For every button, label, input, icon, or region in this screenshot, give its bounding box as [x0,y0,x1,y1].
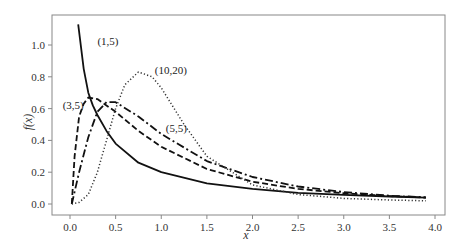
annotation-label: (3,5) [63,99,84,112]
y-tick-label: 0.2 [31,166,45,178]
x-tick-label: 0.0 [63,221,77,233]
y-tick-label: 0.0 [31,198,45,210]
annotation-label: (5,5) [166,122,187,135]
x-axis-ticks: 0.00.51.01.52.02.53.03.54.0 [63,215,442,233]
x-tick-label: 2.5 [291,221,305,233]
x-axis-label: x [242,228,249,242]
y-tick-label: 0.4 [31,134,45,146]
x-tick-label: 0.5 [109,221,123,233]
x-tick-label: 3.5 [383,221,397,233]
x-tick-label: 1.0 [154,221,168,233]
annotation-label: (10,20) [155,64,187,77]
x-tick-label: 3.0 [337,221,351,233]
y-axis-label: f(x) [21,114,35,131]
annotation-label: (1,5) [97,35,118,48]
x-tick-label: 4.0 [428,221,442,233]
chart: 0.00.51.01.52.02.53.03.54.0 0.00.20.40.6… [0,0,466,245]
y-tick-label: 1.0 [31,39,45,51]
x-tick-label: 1.5 [200,221,214,233]
y-tick-label: 0.6 [31,103,45,115]
y-tick-label: 0.8 [31,71,45,83]
